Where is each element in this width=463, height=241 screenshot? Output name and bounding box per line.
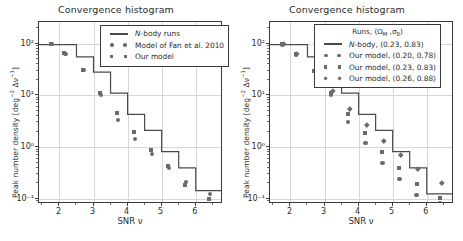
- legend-marker-swatch: [337, 54, 341, 58]
- y-tick-mark-minor: [36, 58, 38, 59]
- y-tick-mark-minor: [267, 58, 269, 59]
- y-tick-mark-minor: [36, 63, 38, 64]
- data-point-marker: [346, 112, 350, 116]
- y-tick-mark-minor: [36, 45, 38, 46]
- y-tick-mark-minor: [267, 121, 269, 122]
- y-tick-mark-minor: [267, 102, 269, 103]
- y-tick-mark-minor: [267, 200, 269, 201]
- data-point-marker: [397, 177, 401, 181]
- y-tick-label: 10¹: [243, 90, 265, 99]
- x-tick-mark-minor: [375, 203, 376, 205]
- legend-marker-swatch: [124, 55, 127, 58]
- legend-item: N-body, (0.23, 0.83): [319, 38, 436, 50]
- x-axis-label-right: SNR ν: [269, 216, 453, 226]
- y-tick-mark-minor: [267, 45, 269, 46]
- legend-marker-swatch: [110, 43, 114, 47]
- y-tick-mark: [35, 43, 38, 44]
- data-point-marker: [98, 91, 102, 95]
- x-axis-label-left: SNR ν: [38, 216, 222, 226]
- y-tick-mark-minor: [36, 48, 38, 49]
- x-tick-label: 6: [423, 207, 428, 216]
- x-tick-label: 3: [321, 207, 326, 216]
- y-tick-mark-minor: [267, 106, 269, 107]
- y-tick-label: 10²: [243, 38, 265, 47]
- page-title-right: Convergence histogram: [231, 4, 463, 15]
- legend-line-swatch: [324, 43, 342, 45]
- x-tick-label: 2: [287, 207, 292, 216]
- legend-item: Model of Fan et al. 2010: [105, 40, 224, 52]
- data-point-marker: [166, 164, 170, 168]
- legend-marker-swatch: [110, 55, 113, 58]
- legend-label: Our model: [135, 52, 174, 61]
- legend-key: [105, 55, 132, 58]
- y-tick-mark-minor: [36, 158, 38, 159]
- legend-label: Our model, (0.26, 0.88): [349, 74, 436, 83]
- y-tick-mark: [266, 43, 269, 44]
- y-tick-mark-minor: [36, 110, 38, 111]
- y-tick-mark-minor: [36, 131, 38, 132]
- legend-key: [319, 43, 346, 45]
- y-tick-mark-minor: [267, 162, 269, 163]
- legend-key: [319, 77, 346, 80]
- legend-key: [319, 54, 346, 58]
- x-tick-mark: [127, 203, 128, 206]
- x-tick-label: 3: [90, 207, 95, 216]
- y-tick-mark-minor: [36, 182, 38, 183]
- legend-marker-swatch: [324, 65, 327, 68]
- legend-item: N-body runs: [105, 28, 224, 40]
- x-tick-mark-minor: [212, 203, 213, 205]
- legend-right: Runs, (ΩM ,σ8)N-body, (0.23, 0.83)Our mo…: [314, 24, 441, 88]
- x-tick-mark-minor: [306, 203, 307, 205]
- x-tick-mark-minor: [144, 203, 145, 205]
- legend-marker-swatch: [123, 43, 127, 47]
- y-tick-mark-minor: [267, 149, 269, 150]
- x-tick-mark-minor: [41, 203, 42, 205]
- legend-marker-swatch: [323, 76, 328, 81]
- y-tick-mark-minor: [267, 70, 269, 71]
- legend-marker-swatch: [324, 54, 328, 58]
- y-tick-mark-minor: [267, 51, 269, 52]
- y-tick-mark-minor: [267, 131, 269, 132]
- y-tick-mark-minor: [267, 154, 269, 155]
- figure-root: Convergence histogram SNR ν Peak number …: [0, 0, 463, 241]
- data-point-marker: [415, 182, 419, 186]
- data-point-marker: [132, 130, 136, 134]
- data-point-marker: [414, 193, 418, 197]
- legend-label: N-body, (0.23, 0.83): [349, 40, 424, 49]
- y-tick-mark-minor: [36, 173, 38, 174]
- x-tick-mark: [324, 203, 325, 206]
- y-tick-mark: [35, 94, 38, 95]
- x-tick-label: 2: [56, 207, 61, 216]
- chart-panel-left: Convergence histogram SNR ν Peak number …: [0, 0, 232, 241]
- x-tick-mark-minor: [272, 203, 273, 205]
- y-tick-mark-minor: [36, 200, 38, 201]
- y-tick-mark: [266, 146, 269, 147]
- data-point-marker: [81, 68, 85, 72]
- data-point-marker: [150, 152, 154, 156]
- x-tick-mark: [289, 203, 290, 206]
- y-tick-label: 10⁰: [243, 142, 265, 151]
- y-tick-mark-minor: [36, 106, 38, 107]
- y-tick-mark-minor: [267, 79, 269, 80]
- x-tick-mark-minor: [75, 203, 76, 205]
- legend-label: Our model, (0.20, 0.78): [349, 51, 436, 60]
- y-tick-mark-minor: [267, 97, 269, 98]
- y-tick-mark: [35, 198, 38, 199]
- y-tick-label: 10⁻¹: [12, 193, 34, 202]
- x-tick-mark: [358, 203, 359, 206]
- x-tick-label: 6: [192, 207, 197, 216]
- data-point-marker: [380, 150, 384, 154]
- x-tick-label: 4: [355, 207, 360, 216]
- y-tick-mark-minor: [36, 97, 38, 98]
- x-tick-mark: [426, 203, 427, 206]
- y-tick-mark-minor: [267, 63, 269, 64]
- page-title-left: Convergence histogram: [0, 4, 232, 15]
- y-tick-mark-minor: [267, 27, 269, 28]
- legend-item: Our model, (0.23, 0.83): [319, 61, 436, 73]
- data-point-marker: [207, 197, 211, 201]
- data-point-marker: [438, 196, 442, 200]
- y-tick-mark-minor: [36, 115, 38, 116]
- x-tick-mark: [195, 203, 196, 206]
- x-tick-mark: [161, 203, 162, 206]
- data-point-marker: [133, 137, 137, 141]
